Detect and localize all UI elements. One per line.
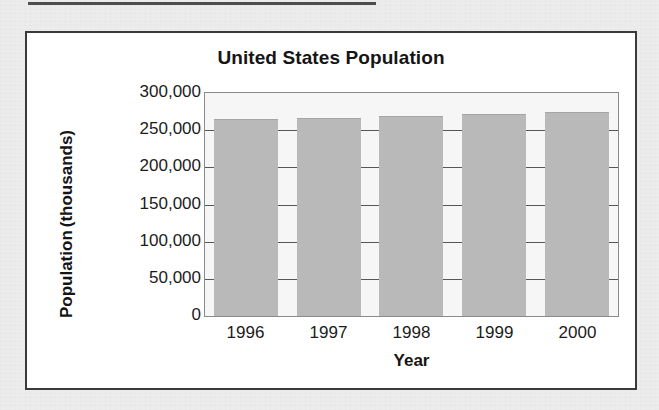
y-axis-tick-labels: 050,000100,000150,000200,000250,000300,0… [97, 86, 201, 318]
bar [379, 116, 443, 316]
y-axis-tick-label: 100,000 [97, 231, 201, 251]
y-axis-tick-label: 250,000 [97, 119, 201, 139]
chart-figure-box: United States Population Population (tho… [25, 31, 637, 390]
plot-area [204, 92, 619, 317]
bar [462, 114, 526, 316]
x-axis-tick-label: 1996 [214, 323, 278, 343]
y-axis-tick-label: 0 [97, 305, 201, 325]
page-top-rule [28, 2, 376, 5]
bar [545, 112, 609, 316]
x-axis-tick-label: 1997 [297, 323, 361, 343]
y-axis-title-line-2: (thousands) [57, 130, 77, 227]
chart-title: United States Population [27, 47, 635, 69]
x-axis-tick-labels: 19961997199819992000 [204, 323, 619, 343]
bar [214, 119, 278, 316]
bar [297, 118, 361, 316]
x-axis-tick-label: 1999 [463, 323, 527, 343]
y-axis-tick-label: 200,000 [97, 156, 201, 176]
y-axis-title-line-1: Population [57, 230, 77, 318]
y-axis-title: Population (thousands) [37, 129, 97, 319]
y-axis-tick-label: 50,000 [97, 268, 201, 288]
x-axis-title: Year [204, 351, 619, 371]
x-axis-tick-label: 1998 [380, 323, 444, 343]
y-axis-tick-label: 300,000 [97, 82, 201, 102]
bar-series [205, 93, 618, 316]
x-axis-tick-label: 2000 [546, 323, 610, 343]
y-axis-tick-label: 150,000 [97, 194, 201, 214]
